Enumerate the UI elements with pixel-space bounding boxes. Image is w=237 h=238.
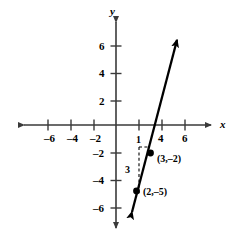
y-tick-label-neg2: –2 [93,148,104,159]
x-tick-label-neg6: –6 [44,133,55,144]
x-tick-label-neg2: –2 [90,133,101,144]
point-label-3-neg2: (3,–2) [157,154,181,164]
x-axis-title: x [220,119,226,130]
y-tick-label-neg6: –6 [93,203,104,214]
run-label: 1 [136,135,141,145]
y-tick-label-2: 2 [99,96,105,107]
coordinate-plane-graph: y x –6 –4 –2 4 6 6 4 2 –2 –4 –6 1 3 (3,–… [0,0,237,238]
y-axis-title: y [110,6,115,17]
plot-canvas [0,0,237,238]
rise-label: 3 [125,165,130,175]
y-tick-label-4: 4 [99,68,105,79]
point-2-neg5 [133,188,140,195]
y-tick-label-neg4: –4 [93,175,104,186]
point-label-2-neg5: (2,–5) [143,187,167,197]
x-axis [24,120,211,131]
point-3-neg2 [147,150,154,157]
x-tick-label-neg4: –4 [67,133,78,144]
x-tick-label-4: 4 [158,133,164,144]
y-tick-label-6: 6 [99,41,105,52]
x-tick-label-6: 6 [182,133,188,144]
